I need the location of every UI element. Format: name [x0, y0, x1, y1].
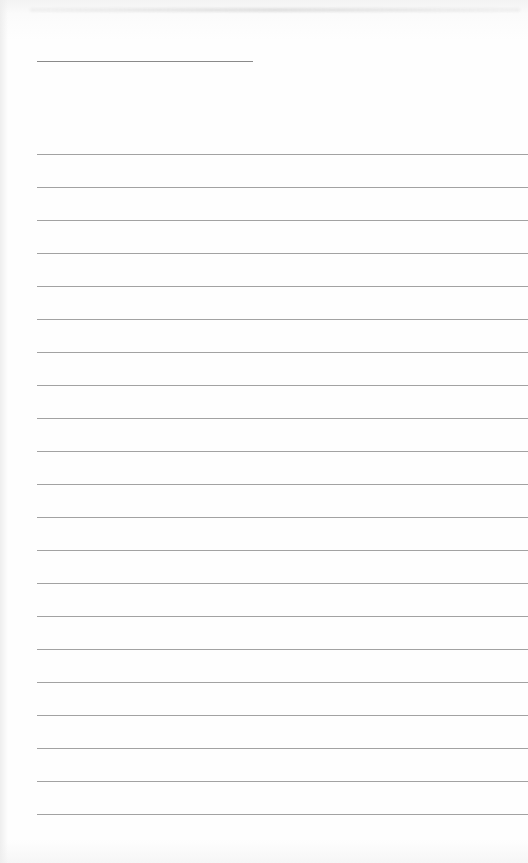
ruled-line [37, 781, 528, 782]
ruled-line [37, 748, 528, 749]
ruled-line [37, 220, 528, 221]
ruled-line [37, 451, 528, 452]
ruled-line [37, 154, 528, 155]
ruled-line [37, 187, 528, 188]
scan-edge-shadow [30, 8, 520, 12]
ruled-line [37, 649, 528, 650]
ruled-line [37, 682, 528, 683]
lined-paper-page [0, 0, 528, 863]
ruled-line [37, 814, 528, 815]
ruled-line [37, 484, 528, 485]
ruled-line [37, 253, 528, 254]
ruled-line [37, 418, 528, 419]
ruled-line [37, 583, 528, 584]
title-write-line [37, 61, 253, 62]
ruled-line [37, 715, 528, 716]
ruled-line [37, 550, 528, 551]
ruled-line [37, 286, 528, 287]
ruled-line [37, 616, 528, 617]
ruled-line [37, 517, 528, 518]
ruled-line [37, 319, 528, 320]
ruled-line [37, 352, 528, 353]
ruled-line [37, 385, 528, 386]
